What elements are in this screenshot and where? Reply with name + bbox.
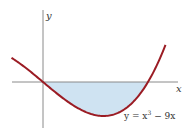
equation-prefix: y = x xyxy=(123,111,147,121)
x-axis-label: x xyxy=(176,83,182,94)
function-graph: y x y = x3 − 9x xyxy=(0,0,190,133)
equation-suffix: − 9x xyxy=(151,111,175,121)
equation-label: y = x3 − 9x xyxy=(123,109,175,121)
y-axis-label: y xyxy=(45,10,52,21)
